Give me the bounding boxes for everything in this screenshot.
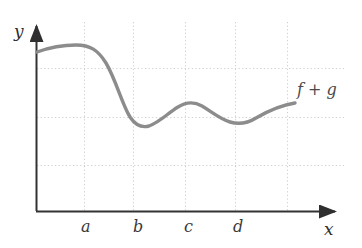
x-tick-label-c: c — [184, 217, 193, 236]
axes — [36, 26, 335, 212]
y-axis-label: y — [14, 21, 24, 41]
plot-area — [0, 0, 362, 248]
x-tick-label-a: a — [81, 217, 91, 236]
x-axis-label: x — [324, 219, 334, 239]
x-tick-label-d: d — [233, 217, 243, 236]
graph-figure: y x a b c d f + g — [0, 0, 362, 248]
curve-f-plus-g — [37, 45, 295, 127]
x-tick-label-b: b — [133, 217, 143, 236]
curve-label-f-plus-g: f + g — [297, 80, 337, 99]
